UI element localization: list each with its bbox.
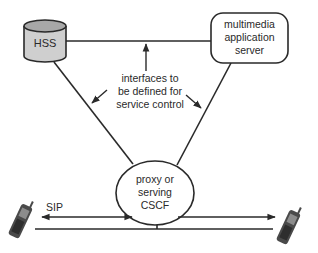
interfaces-annotation: interfaces to be defined for service con…	[100, 72, 200, 111]
hss-label: HSS	[24, 37, 66, 50]
cscf-label-line: CSCF	[116, 199, 194, 212]
app-server-label-line: server	[211, 44, 288, 57]
sip-label: SIP	[46, 201, 70, 214]
app-server-label: multimedia application server	[211, 18, 288, 57]
cscf-label-line: proxy or	[116, 173, 194, 186]
annotation-line: be defined for	[100, 85, 200, 98]
cscf-label-line: serving	[116, 186, 194, 199]
app-server-label-line: application	[211, 31, 288, 44]
app-server-label-line: multimedia	[211, 18, 288, 31]
mobile-phone-icon	[8, 198, 36, 239]
cscf-label: proxy or serving CSCF	[116, 173, 194, 212]
annotation-line: service control	[100, 98, 200, 111]
mobile-phone-icon	[276, 204, 304, 245]
annotation-line: interfaces to	[100, 72, 200, 85]
